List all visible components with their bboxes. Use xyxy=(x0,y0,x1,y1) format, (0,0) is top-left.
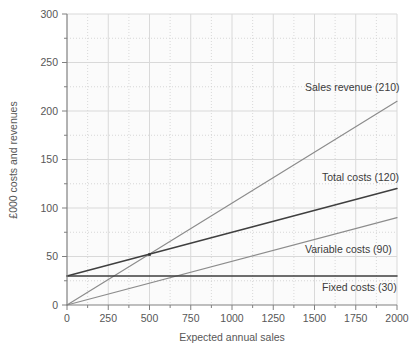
x-tick-label: 500 xyxy=(141,312,159,324)
break-even-chart: 050100150200250300 025050075010001250150… xyxy=(0,0,415,351)
break-even-point-marker xyxy=(148,253,151,256)
series-label-3: Fixed costs (30) xyxy=(322,281,397,293)
series-label-1: Total costs (120) xyxy=(322,171,399,183)
x-tick-label: 1000 xyxy=(220,312,244,324)
y-tick-label: 300 xyxy=(40,8,58,20)
chart-container: 050100150200250300 025050075010001250150… xyxy=(0,0,415,351)
annotations xyxy=(148,253,151,256)
x-tick-label: 1500 xyxy=(303,312,327,324)
y-tick-label: 0 xyxy=(52,299,58,311)
x-tick-label: 250 xyxy=(99,312,117,324)
x-tick-label: 2000 xyxy=(385,312,409,324)
x-axis-tick-labels: 025050075010001250150017502000 xyxy=(64,312,409,324)
series-label-2: Variable costs (90) xyxy=(305,243,392,255)
y-tick-label: 150 xyxy=(40,153,58,165)
x-tick-label: 0 xyxy=(64,312,70,324)
x-tick-label: 1250 xyxy=(262,312,286,324)
x-tick-label: 750 xyxy=(182,312,200,324)
y-tick-label: 200 xyxy=(40,105,58,117)
y-tick-label: 100 xyxy=(40,202,58,214)
y-tick-label: 50 xyxy=(46,250,58,262)
x-axis-title: Expected annual sales xyxy=(179,331,285,343)
series-label-0: Sales revenue (210) xyxy=(305,81,400,93)
x-tick-label: 1750 xyxy=(344,312,368,324)
y-axis-title: £000 costs and revenues xyxy=(7,101,19,218)
y-tick-label: 250 xyxy=(40,56,58,68)
